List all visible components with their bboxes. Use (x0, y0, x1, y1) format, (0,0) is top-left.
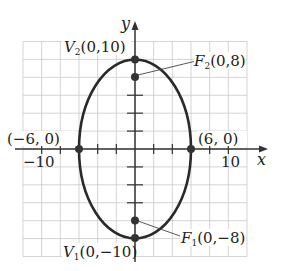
f1-coords: (0,−8) (197, 229, 245, 247)
v1-label: V1(0,−10) (62, 243, 137, 262)
v2-label: V2(0,10) (62, 38, 131, 57)
f1-name: F (180, 229, 192, 247)
svg-text:(−6, 0): (−6, 0) (7, 130, 60, 148)
x-tick-label-neg10: −10 (23, 153, 55, 171)
x-axis-label: x (257, 150, 266, 169)
f1-label: F1(0,−8) (180, 229, 246, 248)
v2-coords: (0,10) (81, 38, 126, 56)
y-axis-label: y (120, 14, 131, 33)
right-covertex-label: (6, 0) (197, 130, 247, 148)
svg-text:F2(0,8): F2(0,8) (193, 52, 246, 71)
svg-text:(6, 0): (6, 0) (198, 130, 238, 148)
v1-coords: (0,−10) (80, 243, 138, 261)
f2-name: F (193, 52, 205, 70)
f1-leader-line (138, 221, 180, 236)
vertex-v2-point (131, 56, 139, 64)
vertex-v1-point (131, 234, 139, 242)
y-axis-arrow-icon (132, 21, 139, 30)
focus-f2-point (131, 73, 139, 81)
ellipse-diagram: y x −10 10 V2(0,10) F2(0,8) (−6, 0) (6, … (0, 0, 285, 271)
f2-label: F2(0,8) (193, 52, 246, 71)
svg-text:F1(0,−8): F1(0,−8) (180, 229, 245, 248)
f2-coords: (0,8) (210, 52, 246, 70)
svg-text:V2(0,10): V2(0,10) (64, 38, 126, 57)
f2-leader-line (138, 61, 196, 75)
covertex-left-point (75, 145, 83, 153)
covertex-right-point (187, 145, 195, 153)
left-covertex-label: (−6, 0) (7, 130, 77, 148)
focus-f1-point (131, 217, 139, 225)
x-tick-label-10: 10 (221, 153, 240, 171)
